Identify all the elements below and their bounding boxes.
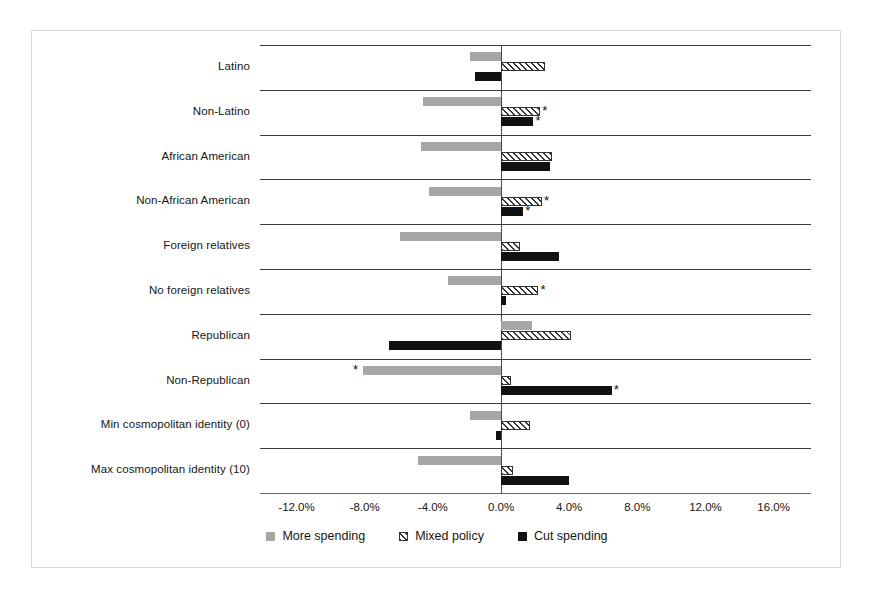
legend-label: More spending — [282, 529, 365, 543]
category-label-1: Non-Latino — [0, 105, 250, 117]
category-label-6: Republican — [0, 329, 250, 341]
significance-marker-1-1: * — [542, 106, 547, 115]
legend-swatch-mixed-icon — [399, 532, 408, 541]
bar-7-0 — [363, 366, 501, 375]
bar-3-2 — [501, 207, 523, 216]
row-separator — [260, 179, 811, 180]
x-tick-label-4: 4.0% — [534, 501, 604, 513]
bar-7-1 — [501, 376, 511, 385]
bar-6-1 — [501, 331, 571, 340]
category-label-5: No foreign relatives — [0, 284, 250, 296]
x-tick-label-0: -12.0% — [262, 501, 332, 513]
significance-marker-1-2: * — [535, 116, 540, 125]
bar-9-0 — [418, 456, 501, 465]
row-separator — [260, 314, 811, 315]
plot-area: LatinoNon-Latino**African AmericanNon-Af… — [32, 31, 842, 569]
bar-2-1 — [501, 152, 552, 161]
bar-9-2 — [501, 476, 569, 485]
significance-marker-3-2: * — [525, 206, 530, 215]
legend-swatch-cut-icon — [518, 532, 527, 541]
legend-label: Cut spending — [534, 529, 608, 543]
chart-legend: More spendingMixed policyCut spending — [32, 529, 842, 543]
bar-3-1 — [501, 197, 542, 206]
bar-7-2 — [501, 386, 612, 395]
bar-8-1 — [501, 421, 530, 430]
category-label-9: Max cosmopolitan identity (10) — [0, 463, 250, 475]
row-separator — [260, 90, 811, 91]
bar-4-1 — [501, 242, 520, 251]
bar-6-2 — [389, 341, 501, 350]
x-tick-label-1: -8.0% — [330, 501, 400, 513]
x-tick-label-6: 12.0% — [670, 501, 740, 513]
bar-1-0 — [423, 97, 501, 106]
significance-marker-3-1: * — [544, 196, 549, 205]
row-separator — [260, 45, 811, 46]
bar-4-2 — [501, 252, 559, 261]
row-separator — [260, 403, 811, 404]
x-tick-label-5: 8.0% — [602, 501, 672, 513]
x-axis-line — [260, 493, 811, 494]
significance-marker-7-0: * — [353, 365, 358, 374]
bar-2-2 — [501, 162, 550, 171]
bar-6-0 — [501, 321, 532, 330]
row-separator — [260, 269, 811, 270]
row-separator — [260, 359, 811, 360]
bar-1-2 — [501, 117, 533, 126]
bar-4-0 — [400, 232, 501, 241]
bar-8-2 — [496, 431, 501, 440]
legend-item-1[interactable]: Mixed policy — [399, 529, 484, 543]
legend-swatch-more-icon — [266, 532, 275, 541]
category-label-7: Non-Republican — [0, 374, 250, 386]
row-separator — [260, 224, 811, 225]
bar-9-1 — [501, 466, 513, 475]
category-label-8: Min cosmopolitan identity (0) — [0, 418, 250, 430]
significance-marker-5-1: * — [540, 285, 545, 294]
bar-5-0 — [448, 276, 501, 285]
bar-0-0 — [470, 52, 501, 61]
legend-label: Mixed policy — [415, 529, 484, 543]
chart-figure: LatinoNon-Latino**African AmericanNon-Af… — [31, 30, 841, 568]
bar-8-0 — [470, 411, 501, 420]
x-tick-label-3: 0.0% — [466, 501, 536, 513]
category-label-3: Non-African American — [0, 194, 250, 206]
significance-marker-7-2: * — [614, 385, 619, 394]
x-axis-zero-tick — [501, 486, 502, 494]
bar-2-0 — [421, 142, 501, 151]
category-label-2: African American — [0, 150, 250, 162]
x-tick-label-2: -4.0% — [398, 501, 468, 513]
bar-5-2 — [501, 296, 506, 305]
row-separator — [260, 135, 811, 136]
bar-1-1 — [501, 107, 540, 116]
category-label-4: Foreign relatives — [0, 239, 250, 251]
legend-item-0[interactable]: More spending — [266, 529, 365, 543]
x-tick-label-7: 16.0% — [739, 501, 809, 513]
bar-5-1 — [501, 286, 538, 295]
bar-0-1 — [501, 62, 545, 71]
bar-3-0 — [429, 187, 501, 196]
row-separator — [260, 448, 811, 449]
bar-0-2 — [475, 72, 501, 81]
legend-item-2[interactable]: Cut spending — [518, 529, 608, 543]
category-label-0: Latino — [0, 60, 250, 72]
